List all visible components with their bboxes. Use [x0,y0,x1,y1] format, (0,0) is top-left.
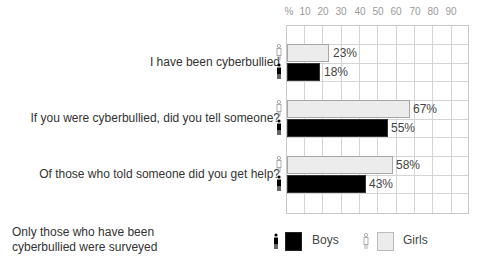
female-figure-icon [276,156,282,173]
bar-boys [287,63,320,81]
male-figure-icon [273,233,279,250]
legend-label-girls: Girls [403,233,428,247]
female-figure-icon [363,233,369,250]
male-figure-icon [276,63,282,80]
legend-swatch-boys [285,232,302,251]
x-tick-label: 70 [409,6,420,17]
x-tick-label: % [285,6,294,17]
x-tick-label: 30 [335,6,346,17]
x-tick-label: 10 [299,6,310,17]
x-tick-label: 90 [445,6,456,17]
survey-note-line: cyberbullied were surveyed [12,240,157,255]
x-tick-label: 40 [354,6,365,17]
category-label: If you were cyberbullied, did you tell s… [31,111,280,125]
bar-girls [287,44,329,62]
grid-line [287,81,468,82]
category-label: I have been cyberbullied [150,55,280,69]
female-figure-icon [276,44,282,61]
survey-note: Only those who have been cyberbullied we… [12,225,157,255]
bar-value-label: 23% [333,44,357,62]
x-tick-label: 50 [372,6,383,17]
x-tick-label: 80 [427,6,438,17]
male-figure-icon [276,175,282,192]
bar-boys [287,175,366,193]
legend-label-boys: Boys [312,233,339,247]
bar-boys [287,119,388,137]
legend-swatch-girls [377,232,394,251]
grid-line [287,193,468,194]
bar-value-label: 43% [369,175,393,193]
x-tick-label: 60 [390,6,401,17]
female-figure-icon [276,100,282,117]
bar-girls [287,100,410,118]
bar-girls [287,156,393,174]
bar-value-label: 58% [396,156,420,174]
bar-value-label: 67% [413,100,437,118]
bar-value-label: 18% [324,63,348,81]
x-tick-label: 20 [317,6,328,17]
category-label: Of those who told someone did you get he… [39,167,280,181]
male-figure-icon [276,119,282,136]
survey-note-line: Only those who have been [12,225,157,240]
bar-value-label: 55% [391,119,415,137]
grid-line [287,137,468,138]
